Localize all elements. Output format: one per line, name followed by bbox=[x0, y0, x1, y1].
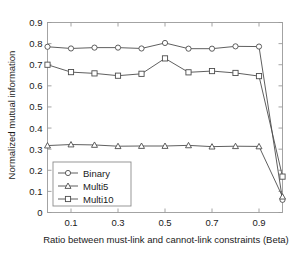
data-point bbox=[92, 45, 97, 50]
data-point bbox=[256, 44, 261, 49]
data-point bbox=[115, 73, 120, 78]
x-tick-label: 0.7 bbox=[205, 217, 218, 228]
legend-label-multi10: Multi10 bbox=[83, 194, 114, 205]
x-axis-title: Ratio between must-link and cannot-link … bbox=[43, 234, 289, 245]
data-point bbox=[186, 70, 191, 75]
data-point bbox=[115, 45, 120, 50]
legend-marker-circle bbox=[65, 170, 70, 175]
x-tick-label: 0.9 bbox=[252, 217, 265, 228]
data-point bbox=[233, 44, 238, 49]
data-point bbox=[68, 70, 73, 75]
y-tick-label: 0.2 bbox=[29, 165, 42, 176]
y-tick-label: 0.9 bbox=[29, 17, 42, 28]
x-tick-label: 0.1 bbox=[64, 217, 77, 228]
y-tick-label: 0 bbox=[37, 207, 42, 218]
data-point bbox=[233, 70, 238, 75]
legend-marker-square bbox=[65, 196, 70, 201]
data-point bbox=[186, 46, 191, 51]
y-tick-label: 0.3 bbox=[29, 144, 42, 155]
chart-figure: 00.10.20.30.40.50.60.70.80.9 0.10.30.50.… bbox=[0, 0, 296, 256]
y-tick-label: 0.7 bbox=[29, 59, 42, 70]
data-point bbox=[280, 194, 286, 199]
legend-label-binary: Binary bbox=[83, 168, 110, 179]
y-tick-label: 0.6 bbox=[29, 80, 42, 91]
y-tick-label: 0.5 bbox=[29, 101, 42, 112]
series-multi10 bbox=[45, 56, 285, 179]
data-point bbox=[162, 56, 167, 61]
data-point bbox=[45, 62, 50, 67]
legend-label-multi5: Multi5 bbox=[83, 181, 108, 192]
data-point bbox=[68, 46, 73, 51]
data-point bbox=[139, 71, 144, 76]
data-point bbox=[92, 71, 97, 76]
data-point bbox=[139, 46, 144, 51]
y-tick-label: 0.4 bbox=[29, 123, 42, 134]
data-point bbox=[256, 74, 261, 79]
data-point bbox=[45, 44, 50, 49]
data-point bbox=[280, 174, 285, 179]
data-point bbox=[209, 68, 214, 73]
data-point bbox=[209, 46, 214, 51]
chart-canvas: 00.10.20.30.40.50.60.70.80.9 0.10.30.50.… bbox=[0, 0, 296, 256]
chart-legend: BinaryMulti5Multi10 bbox=[53, 162, 131, 206]
data-point bbox=[162, 40, 167, 45]
x-tick-label: 0.3 bbox=[111, 217, 124, 228]
x-tick-label: 0.5 bbox=[158, 217, 171, 228]
y-tick-label: 0.1 bbox=[29, 186, 42, 197]
y-tick-label: 0.8 bbox=[29, 38, 42, 49]
y-axis-title: Normalized mutual information bbox=[6, 51, 17, 180]
